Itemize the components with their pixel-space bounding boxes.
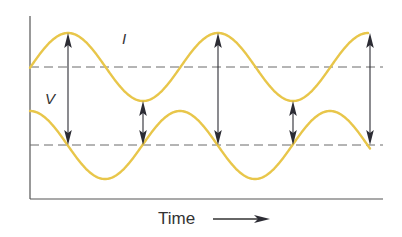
double-arrow-5 <box>366 33 374 145</box>
double-arrow-2 <box>139 101 147 145</box>
baselines <box>30 67 383 145</box>
time-axis-label: Time <box>158 209 195 228</box>
amplitude-arrows <box>64 33 374 145</box>
voltage-label: V <box>45 90 57 107</box>
current-voltage-phase-diagram: I V Time <box>0 0 402 237</box>
current-label: I <box>122 30 126 47</box>
axes <box>30 16 383 199</box>
double-arrow-3 <box>214 33 222 145</box>
double-arrow-1 <box>64 33 72 145</box>
double-arrow-4 <box>289 101 297 145</box>
